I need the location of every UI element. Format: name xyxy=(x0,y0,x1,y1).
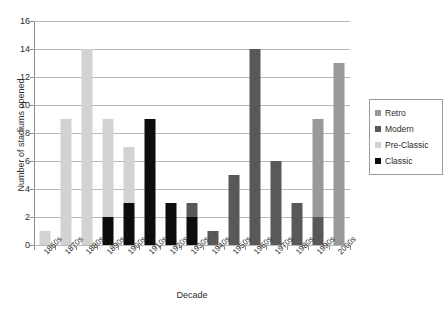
legend-swatch-icon xyxy=(375,142,381,148)
bar[interactable] xyxy=(334,63,345,245)
legend-item-label: Retro xyxy=(385,109,406,118)
bar-segment[interactable] xyxy=(102,119,113,217)
bar-group[interactable] xyxy=(181,21,202,245)
legend-item-label: Modern xyxy=(385,125,414,134)
stadiums-opened-bar-chart: Number of stadiums opened 0246810121416 … xyxy=(0,0,447,312)
bar[interactable] xyxy=(102,119,113,245)
x-tick-mark xyxy=(34,246,35,250)
bar-segment[interactable] xyxy=(313,119,324,217)
bar-group[interactable] xyxy=(76,21,97,245)
bar-group[interactable] xyxy=(287,21,308,245)
legend-item-label: Classic xyxy=(385,157,412,166)
bar-segment[interactable] xyxy=(250,49,261,245)
y-tick-label: 8 xyxy=(25,128,30,138)
bar-segment[interactable] xyxy=(81,49,92,245)
legend-item[interactable]: Pre-Classic xyxy=(375,137,438,153)
bar[interactable] xyxy=(250,49,261,245)
bar[interactable] xyxy=(271,161,282,245)
y-tick-label: 14 xyxy=(20,44,30,54)
bar-group[interactable] xyxy=(34,21,55,245)
legend-swatch-icon xyxy=(375,158,381,164)
y-tick-label: 16 xyxy=(20,16,30,26)
bar[interactable] xyxy=(60,119,71,245)
bar-segment[interactable] xyxy=(334,63,345,245)
y-tick-label: 10 xyxy=(20,100,30,110)
bar-group[interactable] xyxy=(97,21,118,245)
bar-segment[interactable] xyxy=(271,161,282,245)
x-axis-title: Decade xyxy=(34,290,350,300)
bar[interactable] xyxy=(313,119,324,245)
chart-legend: RetroModernPre-ClassicClassic xyxy=(369,99,443,175)
legend-swatch-icon xyxy=(375,126,381,132)
bar[interactable] xyxy=(229,175,240,245)
y-tick-label: 2 xyxy=(25,212,30,222)
y-tick-label: 12 xyxy=(20,72,30,82)
bar-group[interactable] xyxy=(160,21,181,245)
bar[interactable] xyxy=(123,147,134,245)
legend-item-label: Pre-Classic xyxy=(385,141,428,150)
y-tick-label: 4 xyxy=(25,184,30,194)
bar-segment[interactable] xyxy=(186,203,197,217)
bar-segment[interactable] xyxy=(123,147,134,203)
legend-swatch-icon xyxy=(375,110,381,116)
legend-item[interactable]: Modern xyxy=(375,121,438,137)
legend-item[interactable]: Classic xyxy=(375,153,438,169)
bar-group[interactable] xyxy=(329,21,350,245)
bars-layer xyxy=(34,21,350,245)
y-tick-label: 6 xyxy=(25,156,30,166)
bar-segment[interactable] xyxy=(60,119,71,245)
bar-group[interactable] xyxy=(139,21,160,245)
bar-group[interactable] xyxy=(245,21,266,245)
bar-segment[interactable] xyxy=(229,175,240,245)
bar-group[interactable] xyxy=(203,21,224,245)
bar-group[interactable] xyxy=(266,21,287,245)
bar[interactable] xyxy=(81,49,92,245)
bar-group[interactable] xyxy=(55,21,76,245)
y-tick-label: 0 xyxy=(25,240,30,250)
bar[interactable] xyxy=(144,119,155,245)
bar-group[interactable] xyxy=(224,21,245,245)
bar-group[interactable] xyxy=(308,21,329,245)
legend-item[interactable]: Retro xyxy=(375,105,438,121)
bar-group[interactable] xyxy=(118,21,139,245)
bar-segment[interactable] xyxy=(144,119,155,245)
